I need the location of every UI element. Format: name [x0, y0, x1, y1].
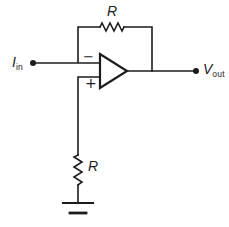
- feedback-wire-right: [124, 27, 152, 71]
- opamp-triangle: [100, 54, 127, 88]
- circuit-canvas: [0, 0, 229, 227]
- output-terminal-dot: [193, 68, 199, 74]
- output-label-symbol: V: [203, 61, 212, 77]
- circuit-schematic: R Iin Vout R − +: [0, 0, 229, 227]
- ground-symbol: [63, 203, 93, 213]
- opamp-noninverting-sign: +: [85, 76, 97, 90]
- input-label-subscript: in: [16, 62, 23, 72]
- feedback-resistor-label: R: [107, 4, 117, 18]
- output-label: Vout: [203, 62, 225, 76]
- opamp-inverting-sign: −: [83, 50, 94, 64]
- input-label: Iin: [12, 55, 23, 69]
- ground-resistor-label: R: [88, 159, 98, 173]
- output-label-subscript: out: [212, 69, 224, 79]
- ground-resistor: [74, 155, 82, 185]
- feedback-resistor: [100, 23, 124, 31]
- input-terminal-dot: [30, 60, 36, 66]
